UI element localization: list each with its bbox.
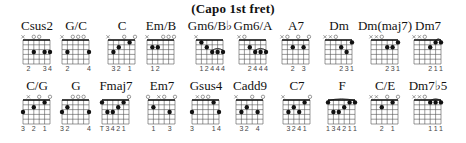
finger-dot-icon bbox=[331, 110, 335, 114]
open-string-icon bbox=[334, 35, 337, 38]
open-string-icon bbox=[32, 35, 35, 38]
muted-string-icon bbox=[375, 35, 378, 38]
muted-string-icon bbox=[369, 95, 372, 98]
open-string-icon bbox=[146, 95, 149, 98]
fretboard-grid bbox=[188, 32, 232, 66]
finger-dot-icon bbox=[100, 100, 104, 104]
fingering-labels: 234 bbox=[15, 65, 59, 75]
finger-dot-icon bbox=[390, 100, 394, 104]
finger-dot-icon bbox=[353, 100, 357, 104]
muted-string-icon bbox=[145, 35, 148, 38]
fretboard-grid bbox=[320, 92, 364, 126]
open-string-icon bbox=[48, 95, 51, 98]
finger-dot-icon bbox=[239, 110, 243, 114]
fingering-labels: 24 bbox=[54, 65, 98, 75]
finger-dot-icon bbox=[439, 40, 443, 44]
open-string-icon bbox=[207, 95, 210, 98]
finger-dot-icon bbox=[350, 40, 354, 44]
finger-dot-icon bbox=[42, 100, 46, 104]
finger-dot-icon bbox=[380, 105, 384, 109]
finger-dot-icon bbox=[48, 50, 52, 54]
fretboard-grid bbox=[363, 92, 407, 126]
fingering-labels: 314 bbox=[184, 125, 228, 135]
open-string-icon bbox=[251, 95, 254, 98]
finger-dot-icon bbox=[116, 105, 120, 109]
open-string-icon bbox=[243, 35, 246, 38]
finger-dot-icon bbox=[258, 50, 262, 54]
open-string-icon bbox=[261, 95, 264, 98]
fretboard-grid bbox=[231, 32, 275, 66]
open-string-icon bbox=[127, 95, 130, 98]
finger-dot-icon bbox=[190, 110, 194, 114]
finger-number: 2 bbox=[244, 125, 250, 132]
finger-number: 4 bbox=[220, 65, 226, 72]
open-string-icon bbox=[286, 35, 289, 38]
finger-dot-icon bbox=[21, 110, 25, 114]
muted-string-icon bbox=[234, 95, 237, 98]
finger-number: 2 bbox=[64, 65, 70, 72]
fretboard-grid bbox=[15, 32, 59, 66]
finger-dot-icon bbox=[65, 50, 69, 54]
finger-number: 2 bbox=[379, 125, 385, 132]
muted-string-icon bbox=[196, 95, 199, 98]
fretboard-grid bbox=[363, 32, 407, 66]
chord-row-2: C/G321G324Fmaj7T3421Em713Gsus4314Cadd932… bbox=[0, 78, 466, 140]
finger-number: 4 bbox=[86, 65, 92, 72]
finger-number: 2 bbox=[290, 65, 296, 72]
muted-string-icon bbox=[281, 95, 284, 98]
finger-dot-icon bbox=[302, 100, 306, 104]
fretboard-grid bbox=[275, 92, 319, 126]
open-string-icon bbox=[38, 35, 41, 38]
finger-number: 1 bbox=[352, 125, 358, 132]
muted-string-icon bbox=[21, 35, 24, 38]
finger-dot-icon bbox=[326, 100, 330, 104]
fretboard-grid bbox=[406, 92, 450, 126]
chord-diagram: Dm7♭5111 bbox=[406, 78, 450, 140]
muted-string-icon bbox=[412, 35, 415, 38]
finger-number: 4 bbox=[86, 125, 92, 132]
finger-number: 1 bbox=[438, 65, 444, 72]
finger-dot-icon bbox=[65, 105, 69, 109]
fingering-labels: 324 bbox=[228, 125, 272, 135]
finger-number: 1 bbox=[438, 125, 444, 132]
open-string-icon bbox=[172, 35, 175, 38]
finger-dot-icon bbox=[396, 40, 400, 44]
finger-dot-icon bbox=[211, 100, 215, 104]
finger-dot-icon bbox=[342, 105, 346, 109]
fingering-labels: 134211 bbox=[320, 125, 364, 135]
finger-number: 4 bbox=[47, 65, 53, 72]
finger-dot-icon bbox=[253, 50, 257, 54]
finger-number: 2 bbox=[64, 125, 70, 132]
finger-number: 4 bbox=[216, 125, 222, 132]
fingering-labels: 231 bbox=[363, 65, 407, 75]
open-string-icon bbox=[82, 95, 85, 98]
open-string-icon bbox=[71, 95, 74, 98]
finger-number: 1 bbox=[121, 125, 127, 132]
open-string-icon bbox=[82, 35, 85, 38]
muted-string-icon bbox=[418, 35, 421, 38]
finger-dot-icon bbox=[199, 40, 203, 44]
fingering-labels: 23 bbox=[274, 65, 318, 75]
finger-dot-icon bbox=[217, 110, 221, 114]
finger-number: 2 bbox=[31, 125, 37, 132]
finger-dot-icon bbox=[87, 50, 91, 54]
open-string-icon bbox=[380, 35, 383, 38]
fretboard-grid bbox=[100, 32, 144, 66]
finger-dot-icon bbox=[121, 100, 125, 104]
muted-string-icon bbox=[280, 35, 283, 38]
open-string-icon bbox=[167, 35, 170, 38]
muted-string-icon bbox=[418, 95, 421, 98]
open-string-icon bbox=[307, 35, 310, 38]
muted-string-icon bbox=[194, 35, 197, 38]
open-string-icon bbox=[386, 95, 389, 98]
fingering-labels: 12444 bbox=[188, 65, 232, 75]
finger-dot-icon bbox=[255, 110, 259, 114]
fretboard-grid bbox=[317, 32, 361, 66]
finger-dot-icon bbox=[433, 100, 437, 104]
finger-number: 3 bbox=[189, 125, 195, 132]
open-string-icon bbox=[308, 95, 311, 98]
page-title: (Capo 1st fret) bbox=[0, 1, 466, 17]
finger-number: 1 bbox=[150, 125, 156, 132]
muted-string-icon bbox=[106, 35, 109, 38]
fretboard-grid bbox=[54, 32, 98, 66]
